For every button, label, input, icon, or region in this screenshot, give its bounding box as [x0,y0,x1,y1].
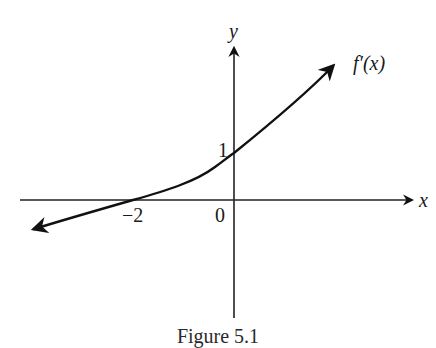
y-tick-1-label: 1 [218,139,228,161]
f-prime-curve [34,66,333,229]
curve-label: f′(x) [353,52,385,75]
figure-caption: Figure 5.1 [0,325,436,348]
x-axis-label: x [418,189,428,211]
y-axis-label: y [227,20,238,43]
origin-label: 0 [215,204,225,226]
x-tick-neg2-label: −2 [122,204,143,226]
